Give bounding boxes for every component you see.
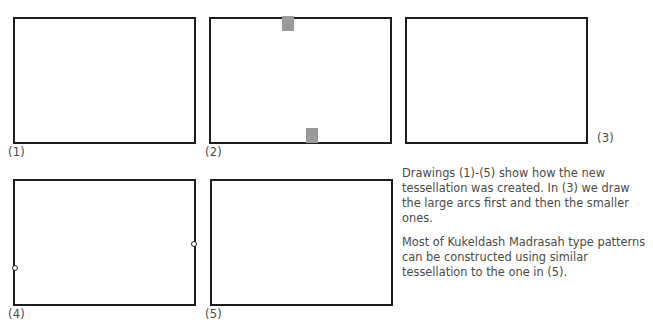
figure-panel-4 [12, 178, 197, 307]
explanatory-text-block: Drawings (1)-(5) show how the new tessel… [402, 166, 650, 280]
panel-5-caption: (5) [205, 309, 222, 321]
caption-paragraph-1: Drawings (1)-(5) show how the new tessel… [402, 166, 650, 226]
figure-panel-5 [209, 178, 394, 307]
panel-4-caption: (4) [8, 309, 25, 321]
panel-1-drawing [12, 16, 197, 145]
panel-3-drawing [404, 16, 589, 145]
panel-2-caption: (2) [205, 147, 222, 159]
marker-rect-top [282, 16, 294, 31]
figure-panel-3 [404, 16, 589, 145]
figure-panel-1 [12, 16, 197, 145]
panel-1-caption: (1) [8, 147, 25, 159]
cropped-header-text [0, 0, 653, 6]
caption-paragraph-2: Most of Kukeldash Madrasah type patterns… [402, 235, 650, 280]
node-dot-right [192, 242, 197, 247]
panel-5-drawing [209, 178, 394, 307]
panel-4-drawing [12, 178, 197, 307]
marker-rect-bottom [306, 128, 318, 143]
panel-3-caption: (3) [597, 133, 614, 145]
figure-panel-2 [208, 16, 393, 145]
node-dot-left [13, 266, 18, 271]
panel-2-drawing [208, 16, 393, 145]
